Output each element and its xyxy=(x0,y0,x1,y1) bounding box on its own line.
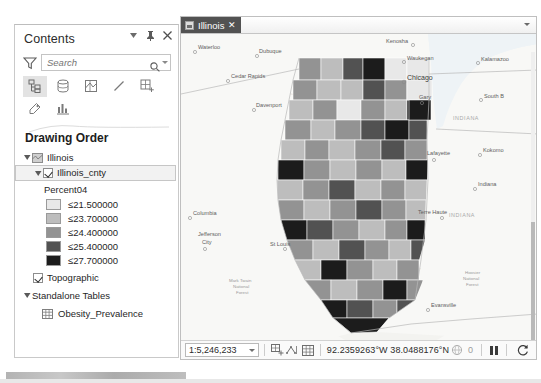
toc-table-label: Obesity_Prevalence xyxy=(58,309,143,319)
contents-toolbar-row-2 xyxy=(23,97,178,119)
legend-label: ≤21.500000 xyxy=(68,199,118,210)
measure-icon[interactable] xyxy=(285,343,300,357)
legend-list: ≤21.500000 ≤23.700000 ≤24.400000 ≤25.400… xyxy=(15,197,178,267)
legend-label: ≤24.400000 xyxy=(68,227,118,238)
list-by-drawing-order-icon[interactable] xyxy=(23,76,47,97)
list-by-charts-icon[interactable] xyxy=(51,98,75,119)
city-label-waukegan: Waukegan xyxy=(407,55,434,61)
city-label-columbia: Columbia xyxy=(193,210,218,216)
contents-toolbar xyxy=(23,75,178,129)
legend-item[interactable]: ≤24.400000 xyxy=(15,225,178,239)
table-of-contents-tree: Illinois Illinois_cnty Percent04 ≤21.500… xyxy=(15,150,178,321)
contents-pane: Contents xyxy=(14,24,179,358)
pane-header-buttons xyxy=(128,30,173,41)
legend-swatch xyxy=(46,199,61,210)
forest-label-mark-twain-1: Mark Twain xyxy=(229,278,252,283)
city-label-gary: Gary xyxy=(419,94,431,100)
list-by-selection-icon[interactable] xyxy=(79,76,103,97)
select-features-icon[interactable] xyxy=(270,343,285,357)
search-row xyxy=(23,54,171,71)
pause-drawing-icon[interactable] xyxy=(490,346,498,355)
status-right-tools: 0 xyxy=(450,343,530,357)
city-label-kokomo: Kokomo xyxy=(483,147,504,153)
toc-map-label: Illinois xyxy=(47,153,73,163)
legend-swatch xyxy=(46,227,61,238)
dropdown-menu-icon[interactable] xyxy=(128,30,139,41)
map-tab-bar: Illinois ✕ xyxy=(181,17,536,34)
contents-pane-header: Contents xyxy=(15,25,178,49)
expand-collapse-icon[interactable] xyxy=(23,154,32,161)
drawing-order-heading: Drawing Order xyxy=(25,131,178,145)
list-by-editing-icon[interactable] xyxy=(107,76,131,97)
attribute-table-icon[interactable] xyxy=(300,343,315,357)
city-label-waterloo: Waterloo xyxy=(198,44,220,50)
selection-globe-icon[interactable] xyxy=(450,343,465,357)
city-label-evansville: Evansville xyxy=(431,302,456,308)
expand-collapse-icon[interactable] xyxy=(23,292,32,299)
scale-combobox[interactable]: 1:5,246,233 xyxy=(185,343,259,357)
state-label-indiana-1: INDIANA xyxy=(453,115,479,121)
list-by-data-source-icon[interactable] xyxy=(51,76,75,97)
city-label-kalamazoo: Kalamazoo xyxy=(481,56,509,62)
contents-pane-title: Contents xyxy=(24,32,75,46)
toc-table-obesity-prevalence[interactable]: Obesity_Prevalence xyxy=(15,306,178,321)
city-label-lafayette: Lafayette xyxy=(427,150,450,156)
search-box[interactable] xyxy=(41,54,171,71)
toc-standalone-tables-label: Standalone Tables xyxy=(32,291,110,301)
map-vertical-scrollbar[interactable] xyxy=(531,52,535,341)
legend-field-label: Percent04 xyxy=(44,184,178,195)
city-label-cedar-rapids: Cedar Rapids xyxy=(231,73,265,79)
toc-basemap-label: Topographic xyxy=(47,273,99,283)
legend-item[interactable]: ≤23.700000 xyxy=(15,211,178,225)
tab-label: Illinois xyxy=(198,20,224,31)
toc-map-illinois[interactable]: Illinois xyxy=(15,150,178,165)
city-label-st-louis: St Louis xyxy=(270,241,290,247)
legend-swatch xyxy=(46,241,61,252)
bottom-bar xyxy=(0,379,541,383)
tab-close-icon[interactable]: ✕ xyxy=(228,20,236,30)
scrollbar-thumb[interactable] xyxy=(531,222,535,341)
forest-label-mark-twain-2: National xyxy=(233,284,249,289)
scale-value: 1:5,246,233 xyxy=(189,345,237,355)
forest-label-hoosier-1: Hoosier xyxy=(465,270,481,275)
pin-icon[interactable] xyxy=(145,30,156,41)
tab-illinois[interactable]: Illinois ✕ xyxy=(181,17,241,33)
map-view: Illinois ✕ xyxy=(180,16,537,360)
toc-layer-illinois-cnty[interactable]: Illinois_cnty xyxy=(15,165,176,181)
map-canvas[interactable]: Waterloo Dubuque Cedar Rapids Davenport … xyxy=(181,34,536,341)
toc-standalone-tables-group[interactable]: Standalone Tables xyxy=(15,288,178,303)
map-coordinates: 92.2359263°W 38.0488176°N xyxy=(326,345,450,355)
tab-overflow-caret-icon[interactable] xyxy=(524,23,530,26)
search-dropdown-caret-icon[interactable] xyxy=(162,61,168,64)
map-status-bar: 1:5,246,233 xyxy=(181,340,536,359)
legend-item[interactable]: ≤21.500000 xyxy=(15,197,178,211)
page-bottom-strip xyxy=(0,371,541,383)
forest-label-hoosier-2: National xyxy=(463,276,479,281)
legend-item[interactable]: ≤27.700000 xyxy=(15,253,178,267)
city-label-indianapolis: Indiana xyxy=(478,181,497,187)
layer-visibility-checkbox[interactable] xyxy=(43,168,53,178)
expand-collapse-icon[interactable] xyxy=(34,170,43,177)
filter-icon[interactable] xyxy=(23,56,37,70)
status-divider xyxy=(481,344,482,356)
blurred-caption xyxy=(6,372,186,379)
close-icon[interactable] xyxy=(162,30,173,41)
map-tab-icon xyxy=(185,21,194,30)
scale-dropdown-caret-icon[interactable] xyxy=(249,349,255,352)
basemap-visibility-checkbox[interactable] xyxy=(33,273,43,283)
map-icon xyxy=(32,153,43,163)
table-icon xyxy=(42,309,53,319)
toc-layer-label: Illinois_cnty xyxy=(57,168,106,178)
list-by-labeling-icon[interactable] xyxy=(23,98,47,119)
city-label-south-bend: South B xyxy=(484,93,504,99)
legend-item[interactable]: ≤25.400000 xyxy=(15,239,178,253)
selection-count: 0 xyxy=(468,345,473,355)
contents-toolbar-row-1 xyxy=(23,75,178,97)
map-graphic: Waterloo Dubuque Cedar Rapids Davenport … xyxy=(181,34,536,341)
list-by-snapping-icon[interactable] xyxy=(135,76,159,97)
legend-swatch xyxy=(46,213,61,224)
status-divider xyxy=(264,344,265,356)
city-label-jefferson-city: Jefferson xyxy=(198,231,221,237)
refresh-icon[interactable] xyxy=(515,343,530,357)
toc-basemap-topographic[interactable]: Topographic xyxy=(15,270,178,285)
